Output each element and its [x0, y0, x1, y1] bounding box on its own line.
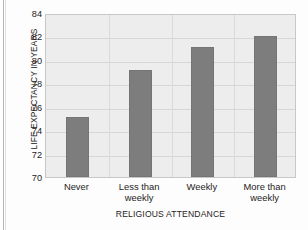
- bar-series: [46, 15, 295, 177]
- bar: [254, 36, 277, 177]
- bar: [191, 47, 214, 177]
- y-axis-tick-label: 72: [10, 150, 42, 160]
- page-edge-line: [3, 0, 4, 230]
- y-axis-tick-label: 80: [10, 56, 42, 66]
- y-axis-tick-label: 76: [10, 103, 42, 113]
- y-axis-tick-label: 84: [10, 9, 42, 19]
- x-axis-tick-label: More thanweekly: [222, 181, 307, 204]
- bar: [129, 70, 152, 177]
- plot-area: [45, 14, 296, 178]
- y-axis-tick-label: 78: [10, 79, 42, 89]
- y-axis-tick-label: 74: [10, 126, 42, 136]
- y-axis-tick-label: 82: [10, 32, 42, 42]
- page-edge-line-secondary: [5, 0, 6, 230]
- x-axis-title: RELIGIOUS ATTENDANCE: [45, 209, 296, 219]
- bar: [66, 117, 89, 177]
- x-axis-tick-labels: NeverLess thanweeklyWeeklyMore thanweekl…: [45, 181, 296, 209]
- bar-chart-figure: LIFE EXPECTANCY IN YEARS 707274767880828…: [0, 0, 308, 230]
- y-axis-tick-labels: 7072747678808284: [10, 0, 42, 230]
